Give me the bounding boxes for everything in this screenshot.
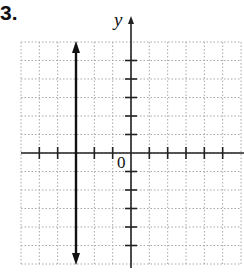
y-axis-label: y [112, 9, 123, 30]
arrow-down-icon [72, 253, 80, 265]
coordinate-graph: y 0 [0, 0, 244, 276]
arrow-up-icon [72, 41, 80, 53]
axes [21, 16, 244, 268]
origin-label: 0 [117, 153, 126, 172]
y-axis-arrow-icon [128, 16, 134, 24]
